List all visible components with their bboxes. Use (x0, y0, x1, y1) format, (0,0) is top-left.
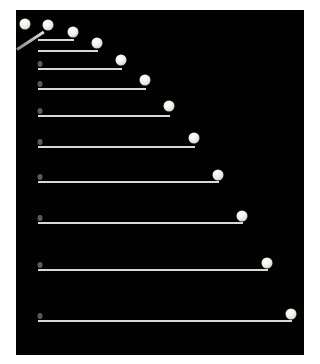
reference-line (38, 222, 243, 224)
reference-line (38, 39, 74, 41)
reference-line (38, 88, 146, 90)
reference-line (38, 68, 122, 70)
ball (237, 211, 248, 222)
ball (189, 133, 200, 144)
dim-ball-marker (38, 61, 43, 67)
ball (213, 170, 224, 181)
dim-ball-marker (38, 139, 43, 145)
dim-ball-marker (38, 262, 43, 268)
reference-line (38, 269, 268, 271)
reference-line (38, 320, 292, 322)
reference-line (38, 115, 170, 117)
ball (68, 27, 79, 38)
reference-line (38, 50, 98, 52)
dim-ball-marker (38, 174, 43, 180)
ball (20, 19, 31, 30)
ball (286, 309, 297, 320)
dim-ball-marker (38, 81, 43, 87)
ball (43, 20, 54, 31)
dim-ball-marker (38, 108, 43, 114)
reference-line (38, 146, 195, 148)
ball (92, 38, 103, 49)
dim-ball-marker (38, 215, 43, 221)
ball (140, 75, 151, 86)
ball (164, 101, 175, 112)
ball (116, 55, 127, 66)
dim-ball-marker (38, 313, 43, 319)
reference-line (38, 181, 219, 183)
ball (262, 258, 273, 269)
